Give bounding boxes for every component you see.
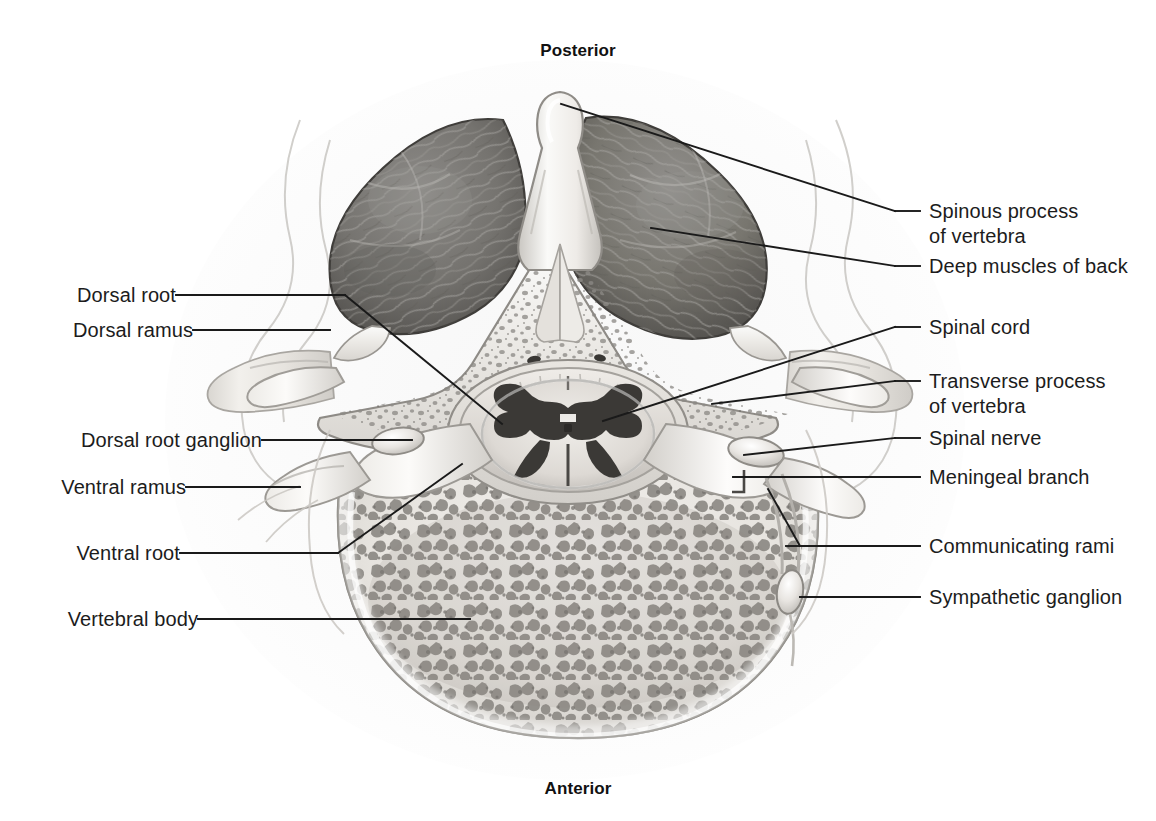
label-dorsal-ramus-line1: Dorsal ramus xyxy=(73,319,193,341)
label-meningeal-branch: Meningeal branch xyxy=(929,465,1090,490)
label-vertebral-body: Vertebral body xyxy=(0,607,198,632)
label-sympathetic-ganglion-line1: Sympathetic ganglion xyxy=(929,586,1122,608)
label-ventral-ramus-line1: Ventral ramus xyxy=(61,476,186,498)
label-communicating-rami-line1: Communicating rami xyxy=(929,535,1114,557)
central-canal xyxy=(564,424,572,432)
label-transverse-process-of-vertebra: Transverse process of vertebra xyxy=(929,369,1106,419)
label-spinal-nerve-line1: Spinal nerve xyxy=(929,427,1041,449)
label-deep-muscles-of-back: Deep muscles of back xyxy=(929,254,1128,279)
label-spinal-cord: Spinal cord xyxy=(929,315,1030,340)
label-spinal-nerve: Spinal nerve xyxy=(929,426,1041,451)
label-transverse-process-line2: of vertebra xyxy=(929,394,1106,419)
label-transverse-process-line1: Transverse process xyxy=(929,370,1106,392)
label-spinal-cord-line1: Spinal cord xyxy=(929,316,1030,338)
label-dorsal-ramus: Dorsal ramus xyxy=(0,318,193,343)
label-ventral-root: Ventral root xyxy=(0,541,180,566)
label-ventral-root-line1: Ventral root xyxy=(77,542,181,564)
label-spinous-process-line1: Spinous process xyxy=(929,200,1078,222)
label-dorsal-root: Dorsal root xyxy=(0,283,176,308)
label-dorsal-root-ganglion: Dorsal root ganglion xyxy=(0,428,262,453)
label-dorsal-root-ganglion-line1: Dorsal root ganglion xyxy=(81,429,262,451)
label-deep-muscles-of-back-line1: Deep muscles of back xyxy=(929,255,1128,277)
orientation-label-posterior: Posterior xyxy=(0,41,1156,61)
label-communicating-rami: Communicating rami xyxy=(929,534,1114,559)
spinal-cord xyxy=(482,376,654,488)
label-dorsal-root-line1: Dorsal root xyxy=(77,284,176,306)
label-spinous-process-line2: of vertebra xyxy=(929,224,1078,249)
label-spinous-process: Spinous process of vertebra xyxy=(929,199,1078,249)
label-sympathetic-ganglion: Sympathetic ganglion xyxy=(929,585,1122,610)
label-vertebral-body-line1: Vertebral body xyxy=(68,608,198,630)
label-meningeal-branch-line1: Meningeal branch xyxy=(929,466,1090,488)
orientation-label-anterior: Anterior xyxy=(0,779,1156,799)
label-ventral-ramus: Ventral ramus xyxy=(0,475,186,500)
